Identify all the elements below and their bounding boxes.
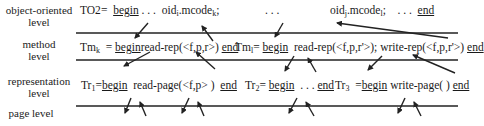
arrow-down-icon <box>135 23 148 38</box>
arrow-down-icon <box>124 52 150 66</box>
end-keyword: end <box>467 41 484 53</box>
arrow-up-icon <box>414 102 421 116</box>
level-divider-lines <box>76 33 458 106</box>
arrow-up-icon <box>306 102 314 116</box>
arrow-down-icon <box>275 23 283 37</box>
arrow-down-icon <box>285 56 294 71</box>
arrow-up-icon <box>198 102 204 116</box>
arrow-up-icon <box>413 55 455 73</box>
call-return-arrows <box>124 23 455 116</box>
arrow-up-icon <box>337 23 448 38</box>
arrow-up-icon <box>140 102 146 116</box>
arrow-down-icon <box>368 56 382 70</box>
